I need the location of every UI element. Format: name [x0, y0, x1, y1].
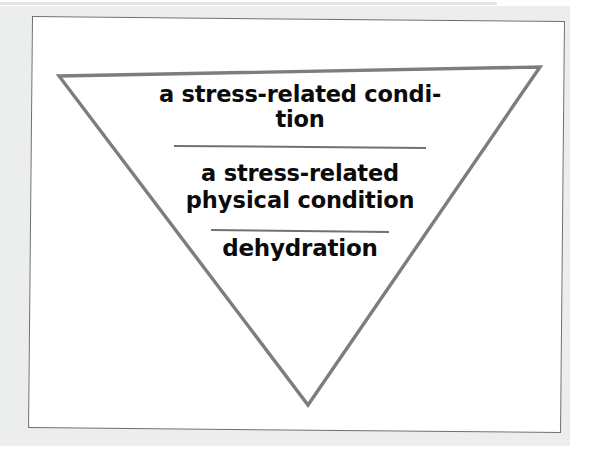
scanned-figure-page: a stress-related condi- tion a stress-re… — [0, 0, 594, 463]
divider-line-1 — [174, 145, 426, 149]
term-level-intermediate-line1: a stress-related — [120, 160, 480, 187]
divider-line-2 — [211, 229, 389, 233]
term-level-intermediate-line2: physical condition — [120, 187, 480, 214]
term-level-specific: dehydration — [120, 234, 480, 262]
term-level-intermediate: a stress-related physical condition — [120, 160, 480, 214]
term-level-broad-line2: tion — [275, 106, 324, 132]
scan-right-margin — [570, 0, 594, 463]
term-emphasis-physical: physical — [186, 187, 290, 213]
term-level-broad-line1: a stress-related condi- — [159, 81, 441, 107]
term-hierarchy-stack: a stress-related condi- tion a stress-re… — [120, 82, 480, 262]
scan-bottom-margin — [0, 446, 594, 463]
term-level-intermediate-line2-rest: condition — [290, 187, 414, 213]
scan-top-edge-artifact — [0, 2, 497, 5]
term-level-broad: a stress-related condi- tion — [120, 82, 480, 132]
